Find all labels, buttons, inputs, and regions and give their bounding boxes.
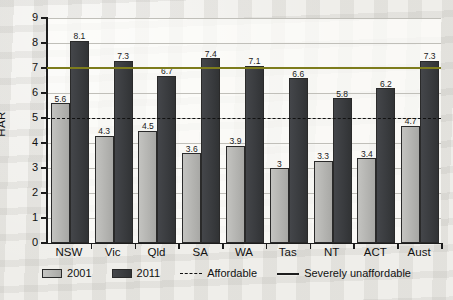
bar-vic-2001[interactable]: 4.3 <box>95 136 114 244</box>
bar-nt-2011[interactable]: 5.8 <box>333 98 352 243</box>
bar-group-tas: 36.6 <box>270 18 308 243</box>
bar-group-nt: 3.35.8 <box>314 18 352 243</box>
bar-qld-2011[interactable]: 6.7 <box>157 76 176 244</box>
y-tick-label: 2 <box>20 187 38 198</box>
bar-tas-2001[interactable]: 3 <box>270 168 289 243</box>
bar-group-vic: 4.37.3 <box>95 18 133 243</box>
y-tick-label: 0 <box>20 237 38 248</box>
bar-value-label: 7.3 <box>117 52 129 61</box>
bar-nsw-2001[interactable]: 5.6 <box>51 103 70 243</box>
legend-item-2001[interactable]: 2001 <box>42 268 91 279</box>
bar-value-label: 7.3 <box>424 52 436 61</box>
bar-aust-2001[interactable]: 4.7 <box>401 126 420 244</box>
bar-chart: HAR 0123456789 5.68.14.37.34.56.73.67.43… <box>0 0 453 300</box>
x-axis-label-aust: Aust <box>389 247 449 259</box>
chart-legend: 20012011AffordableSeverely unaffordable <box>0 268 453 279</box>
y-tick-label: 6 <box>20 87 38 98</box>
legend-solid-line-icon <box>277 273 299 275</box>
legend-label: Severely unaffordable <box>304 268 411 279</box>
bar-act-2011[interactable]: 6.2 <box>376 88 395 243</box>
bar-vic-2011[interactable]: 7.3 <box>114 61 133 244</box>
bar-value-label: 3.3 <box>317 152 329 161</box>
legend-item-severely-unaffordable[interactable]: Severely unaffordable <box>277 268 411 279</box>
y-tick-label: 9 <box>20 12 38 23</box>
y-tick-label: 5 <box>20 112 38 123</box>
y-tick-label: 3 <box>20 162 38 173</box>
bar-value-label: 3.6 <box>186 145 198 154</box>
legend-label: 2011 <box>137 268 161 279</box>
y-tick-label: 7 <box>20 62 38 73</box>
bar-group-sa: 3.67.4 <box>182 18 220 243</box>
bar-group-aust: 4.77.3 <box>401 18 439 243</box>
bar-wa-2001[interactable]: 3.9 <box>226 146 245 244</box>
bar-nt-2001[interactable]: 3.3 <box>314 161 333 244</box>
bar-value-label: 7.4 <box>205 50 217 59</box>
bar-value-label: 3.9 <box>230 137 242 146</box>
legend-swatch-2011-icon <box>112 269 132 278</box>
legend-item-affordable[interactable]: Affordable <box>180 268 257 279</box>
bar-value-label: 6.2 <box>380 80 392 89</box>
reference-line-affordable <box>47 118 441 119</box>
legend-item-2011[interactable]: 2011 <box>112 268 161 279</box>
legend-dashed-line-icon <box>180 273 202 274</box>
legend-swatch-2001-icon <box>42 269 62 278</box>
legend-label: 2001 <box>67 268 91 279</box>
bar-sa-2001[interactable]: 3.6 <box>182 153 201 243</box>
reference-line-severely-unaffordable <box>47 67 441 69</box>
y-tick-label: 4 <box>20 137 38 148</box>
bar-value-label: 3 <box>277 160 282 169</box>
bar-value-label: 5.8 <box>336 90 348 99</box>
bar-sa-2011[interactable]: 7.4 <box>201 58 220 243</box>
y-tick-label: 1 <box>20 212 38 223</box>
bar-tas-2011[interactable]: 6.6 <box>289 78 308 243</box>
bar-act-2001[interactable]: 3.4 <box>357 158 376 243</box>
bar-value-label: 4.3 <box>98 127 110 136</box>
bar-group-qld: 4.56.7 <box>138 18 176 243</box>
bar-group-act: 3.46.2 <box>357 18 395 243</box>
bar-group-wa: 3.97.1 <box>226 18 264 243</box>
bar-aust-2011[interactable]: 7.3 <box>420 61 439 244</box>
legend-label: Affordable <box>207 268 257 279</box>
bar-value-label: 8.1 <box>73 32 85 41</box>
y-axis-title: HAR <box>0 111 7 136</box>
bar-value-label: 6.6 <box>292 70 304 79</box>
bar-qld-2001[interactable]: 4.5 <box>138 131 157 244</box>
bar-value-label: 5.6 <box>54 95 66 104</box>
bar-value-label: 3.4 <box>361 150 373 159</box>
bar-value-label: 4.5 <box>142 122 154 131</box>
bar-group-nsw: 5.68.1 <box>51 18 89 243</box>
bar-value-label: 7.1 <box>249 57 261 66</box>
y-axis-line <box>46 17 48 244</box>
bar-wa-2011[interactable]: 7.1 <box>245 66 264 244</box>
y-tick-label: 8 <box>20 37 38 48</box>
bar-nsw-2011[interactable]: 8.1 <box>70 41 89 244</box>
